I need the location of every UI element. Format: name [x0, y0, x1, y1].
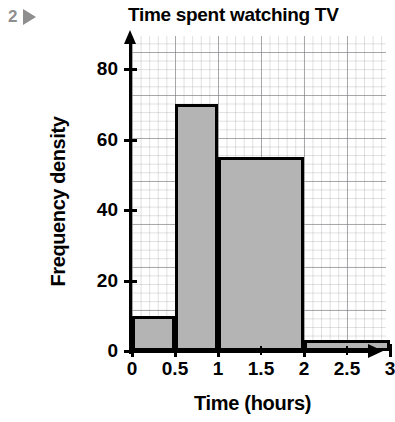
y-axis-arrow-icon [124, 30, 136, 44]
x-axis-title: Time (hours) [120, 392, 385, 415]
plot-area [132, 36, 386, 351]
y-axis-tick [124, 280, 137, 283]
question-number: 2 [8, 8, 17, 25]
y-axis-tick-label: 20 [78, 270, 118, 292]
x-axis-tick-label: 2.5 [334, 358, 360, 380]
x-axis-tick [303, 344, 306, 357]
x-axis-tick [131, 344, 134, 357]
x-axis-tick-label: 3 [385, 358, 395, 380]
x-axis-tick-label: 2 [299, 358, 310, 380]
x-axis-tick [174, 344, 177, 357]
x-axis-tick-label: 0.5 [162, 358, 188, 380]
play-triangle-icon [23, 9, 36, 25]
y-axis-tick [124, 68, 137, 71]
x-axis-tick-label: 1 [213, 358, 224, 380]
histogram-bar [218, 157, 304, 351]
x-axis-tick [389, 344, 392, 357]
chart-title: Time spent watching TV [128, 4, 390, 26]
x-axis-arrow-icon [368, 344, 383, 358]
x-axis-tick [346, 346, 348, 355]
y-axis-tick [124, 139, 137, 142]
y-axis-tick-label: 0 [78, 340, 118, 362]
y-axis-line [129, 42, 132, 354]
x-axis-tick [217, 344, 220, 357]
x-axis-tick-label: 0 [127, 358, 138, 380]
histogram-bar [175, 104, 218, 351]
y-axis-tick-label: 60 [78, 129, 118, 151]
x-axis-tick [260, 346, 262, 355]
histogram-bar [132, 316, 175, 351]
x-axis-line [129, 350, 370, 353]
question-marker: 2 [8, 8, 36, 25]
y-axis-tick-label: 80 [78, 58, 118, 80]
x-axis-tick-label: 1.5 [248, 358, 274, 380]
histogram-bars [132, 36, 386, 351]
y-axis-title: Frequency density [47, 82, 70, 322]
y-axis-tick-label: 40 [78, 199, 118, 221]
y-axis-tick [124, 209, 137, 212]
